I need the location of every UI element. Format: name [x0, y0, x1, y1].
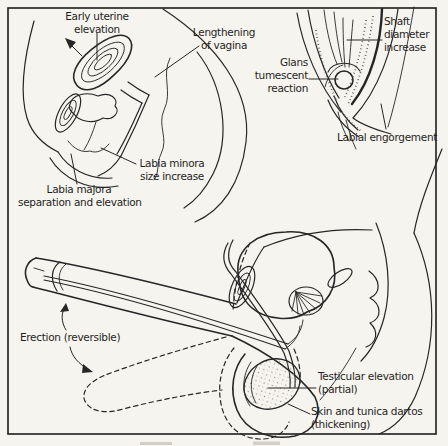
caption-fragment-2: [253, 442, 280, 446]
leader-lines-and-arrows: [60, 33, 386, 414]
uterine-elevation-arrow-shaft: [72, 46, 82, 56]
label-skin-tunica-dartos: Skin and tunica dartos (thickening): [311, 405, 422, 430]
bladder-outline-male: [238, 232, 335, 319]
label-glans-tumescent-reaction: Glans tumescent reaction: [248, 56, 308, 95]
pubic-bone-outline: [50, 90, 86, 136]
urethra-bend-2: [285, 326, 300, 349]
stipple-shading-lower: [338, 106, 361, 131]
erection-arrow-down-icon: [82, 364, 93, 373]
female-abdomen-outline: [23, 21, 58, 152]
right-labium-dark-line: [352, 9, 382, 104]
cervix-line-1: [128, 82, 149, 95]
erection-arrow-up-icon: [60, 303, 69, 312]
label-labia-majora-separation: Labia majora separation and elevation: [18, 183, 140, 208]
label-line: increase: [384, 41, 429, 54]
cropped-caption-marks: [140, 442, 280, 446]
label-line: Shaft: [384, 15, 429, 28]
pubic-bone: [50, 90, 86, 136]
vagina-wall-posterior: [121, 95, 149, 156]
pubic-bone-hatch-1: [57, 98, 80, 128]
left-fold-line-2: [334, 12, 342, 62]
perineal-profile-wiggle: [366, 271, 379, 347]
label-line: Erection (reversible): [20, 331, 120, 344]
label-line: diameter: [384, 28, 429, 41]
label-lengthening-of-vagina: Lengthening of vagina: [189, 26, 259, 51]
label-line: (thickening): [311, 418, 422, 431]
symphysis-outline: [224, 263, 260, 311]
label-line: tumescent: [248, 69, 308, 82]
clitoral-shaft-line-2: [349, 20, 353, 67]
clitoral-shaft-line-1: [343, 18, 345, 67]
label-line: Skin and tunica dartos: [311, 405, 422, 418]
leader-labial-engorgement: [381, 104, 386, 129]
label-shaft-diameter-increase: Shaft diameter increase: [384, 15, 429, 54]
glans-clitoris: [335, 71, 353, 89]
back-outline-upper: [414, 149, 442, 233]
uterus-hatch-1: [75, 35, 131, 88]
label-line: size increase: [134, 170, 210, 183]
label-line: Labial engorgement: [337, 131, 437, 144]
label-line: separation and elevation: [18, 196, 140, 209]
caption-fragment-1: [140, 442, 172, 445]
scanned-figure-page: Early uterine elevation Lengthening of v…: [0, 0, 448, 446]
label-line: reaction: [248, 82, 308, 95]
erection-arrow-down-shaft: [70, 347, 88, 369]
label-line: Testicular elevation: [318, 370, 414, 383]
cervix-line-2: [121, 90, 142, 103]
meatus-line: [34, 268, 44, 271]
uterus-hatch-3: [92, 52, 114, 73]
label-line: (partial): [318, 383, 414, 396]
label-labia-minora-size-increase: Labia minora size increase: [134, 157, 210, 182]
uterine-elevation-arrow-icon: [65, 38, 76, 49]
urethra-bend-1: [288, 320, 303, 344]
label-early-uterine-elevation: Early uterine elevation: [52, 10, 142, 35]
label-line: Labia minora: [134, 157, 210, 170]
label-line: elevation: [52, 23, 142, 36]
labia-minora-line: [98, 156, 121, 176]
label-line: Early uterine: [52, 10, 142, 23]
labia-majora-upper-line: [58, 152, 112, 178]
glans-penis-tip: [25, 258, 36, 287]
label-erection-reversible: Erection (reversible): [20, 331, 120, 344]
vagina-wall-anterior: [117, 103, 142, 154]
label-line: of vagina: [189, 39, 259, 52]
left-labium-inner-line: [308, 10, 339, 98]
seminal-vesicle: [325, 265, 355, 291]
leader-skin-tunica: [288, 404, 310, 414]
stipple-shading-left: [316, 30, 336, 100]
female-posterior-wall-curve: [184, 52, 223, 208]
pubic-symphysis: [224, 263, 260, 311]
uterus-outline: [66, 26, 141, 98]
label-line: Labia majora: [18, 183, 140, 196]
seminal-vesicle-outline: [325, 265, 355, 291]
label-line: Lengthening: [189, 26, 259, 39]
uterus: [66, 26, 141, 98]
flaccid-penis-dashed-outline: [84, 337, 226, 412]
label-labial-engorgement: Labial engorgement: [337, 131, 437, 144]
urethra-line-female: [84, 122, 96, 150]
corona-line-2: [59, 264, 66, 290]
label-line: Glans: [248, 56, 308, 69]
uterus-hatch-2: [84, 44, 122, 81]
label-testicular-elevation: Testicular elevation (partial): [318, 370, 414, 395]
bladder-outline-female: [69, 94, 117, 122]
